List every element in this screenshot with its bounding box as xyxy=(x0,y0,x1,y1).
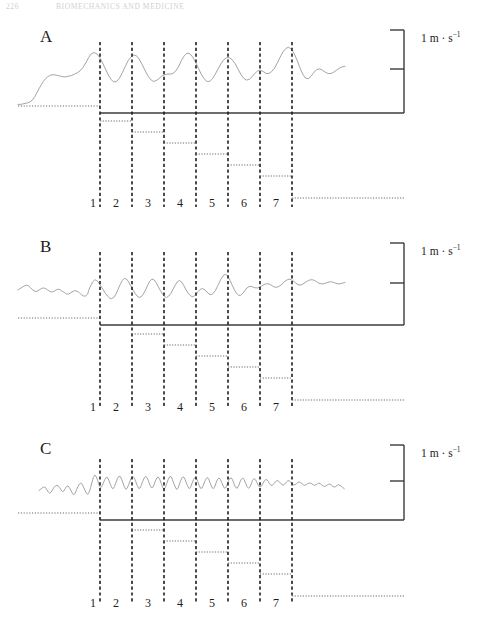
waveform-trace xyxy=(39,475,344,495)
tick-number-1: 1 xyxy=(86,400,100,415)
tick-number-2: 2 xyxy=(109,196,123,211)
tick-number-3: 3 xyxy=(141,400,155,415)
tick-number-2: 2 xyxy=(109,400,123,415)
tick-number-3: 3 xyxy=(141,196,155,211)
scale-bar-label-exponent: −1 xyxy=(453,243,461,252)
tick-number-5: 5 xyxy=(205,596,219,611)
scale-bar-label-text: 1 m · s xyxy=(421,245,453,257)
tick-number-7: 7 xyxy=(269,596,283,611)
waveform-trace xyxy=(18,274,345,298)
scale-bar-label-exponent: −1 xyxy=(453,445,461,454)
scale-bar-label: 1 m · s−1 xyxy=(421,243,461,257)
tick-number-7: 7 xyxy=(269,196,283,211)
tick-number-1: 1 xyxy=(86,596,100,611)
panel-c xyxy=(18,445,404,603)
tick-number-3: 3 xyxy=(141,596,155,611)
scale-bar-label-text: 1 m · s xyxy=(421,32,453,44)
tick-number-5: 5 xyxy=(205,400,219,415)
tick-number-4: 4 xyxy=(173,196,187,211)
panel-a xyxy=(18,30,404,207)
figure-svg xyxy=(0,0,489,639)
tick-number-4: 4 xyxy=(173,596,187,611)
scale-bar-label-text: 1 m · s xyxy=(421,447,453,459)
tick-number-4: 4 xyxy=(173,400,187,415)
tick-number-6: 6 xyxy=(237,596,251,611)
tick-number-7: 7 xyxy=(269,400,283,415)
waveform-trace xyxy=(18,47,345,104)
scale-bar-label: 1 m · s−1 xyxy=(421,30,461,44)
scale-bar-label-exponent: −1 xyxy=(453,30,461,39)
panel-letter-c: C xyxy=(40,440,51,457)
tick-number-2: 2 xyxy=(109,596,123,611)
panel-letter-a: A xyxy=(40,28,52,45)
tick-number-6: 6 xyxy=(237,196,251,211)
panel-b xyxy=(18,243,404,408)
scale-bar-label: 1 m · s−1 xyxy=(421,445,461,459)
panel-letter-b: B xyxy=(40,238,51,255)
figure-container: 226 BIOMECHANICS AND MEDICINE A1 m · s−1… xyxy=(0,0,489,639)
tick-number-1: 1 xyxy=(86,196,100,211)
tick-number-5: 5 xyxy=(205,196,219,211)
tick-number-6: 6 xyxy=(237,400,251,415)
